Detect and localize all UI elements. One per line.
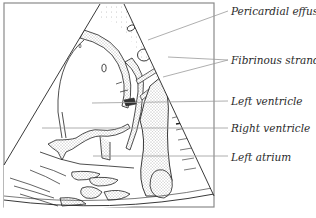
label-left-atrium: Left atrium — [231, 151, 291, 163]
ultrasound-sector — [4, 4, 214, 209]
label-fibrinous-strands: Fibrinous strands — [231, 54, 316, 66]
label-pericardial-effusion: Pericardial effusion — [231, 5, 316, 17]
label-right-ventricle: Right ventricle — [231, 122, 310, 134]
leader-pericardial-effusion — [148, 11, 228, 40]
echocardiogram-diagram — [0, 0, 316, 218]
leader-fibrinous-strands-2 — [163, 60, 228, 77]
leader-fibrinous-strands-1 — [168, 57, 228, 60]
label-left-ventricle: Left ventricle — [231, 95, 303, 107]
left-atrium-region — [150, 170, 172, 198]
